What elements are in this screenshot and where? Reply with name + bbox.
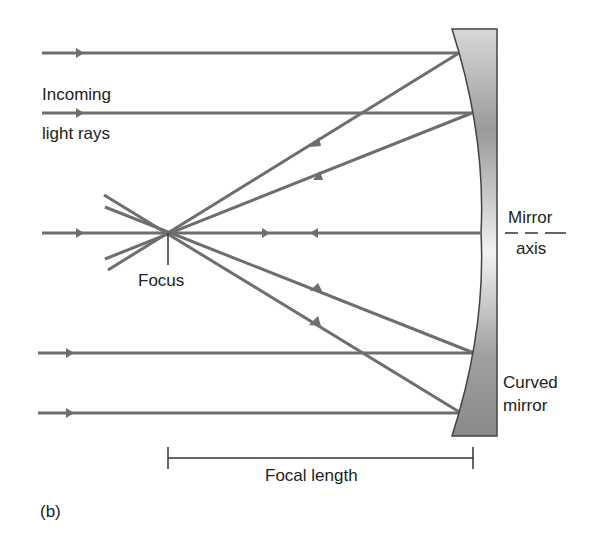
focus-label: Focus [138,271,184,291]
panel-label: (b) [40,502,61,522]
arrow-right-icon [76,228,84,238]
arrow-right-icon [76,108,84,118]
curved-mirror-label-2: mirror [503,396,547,416]
arrow-right-icon [262,228,270,238]
arrow-right-icon [66,408,74,418]
arrow-left-icon [310,228,318,238]
arrow-right-icon [76,48,84,58]
mirror-axis-label-2: axis [516,239,546,259]
arrow-reflect-icon [310,283,322,291]
incoming-rays-label-2: light rays [42,124,110,144]
mirror-axis-label-1: Mirror [508,208,552,228]
focal-length-label: Focal length [265,466,358,486]
arrow-right-icon [66,348,74,358]
curved-mirror-label-1: Curved [503,373,558,393]
incoming-rays [38,53,480,413]
diagram-canvas [0,0,594,536]
incoming-rays-label-1: Incoming [42,85,111,105]
